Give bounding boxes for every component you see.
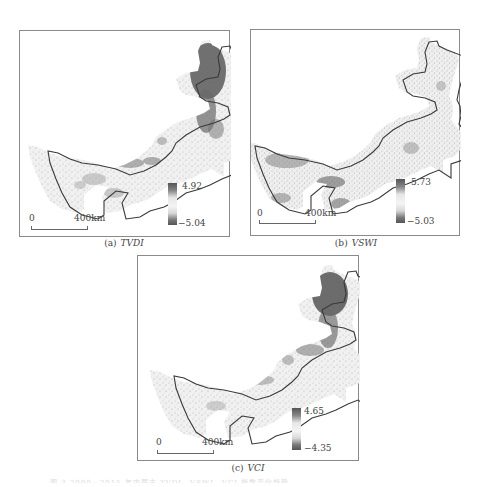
legend-min-b: −5.03 xyxy=(407,216,435,226)
legend-max-b: 5.73 xyxy=(411,177,431,187)
scale-distance-b: 400km xyxy=(305,208,336,218)
legend-max-a: 4.92 xyxy=(182,181,202,191)
map-panel-b: 5.73 −5.03 0 400km xyxy=(250,29,460,236)
scale-zero-b: 0 xyxy=(257,208,263,218)
map-panel-a: 4.92 −5.04 0 400km xyxy=(19,30,230,237)
legend-colorbar-a xyxy=(168,183,177,225)
caption-c: (c)VCI xyxy=(218,463,278,473)
region-map-c xyxy=(138,256,360,462)
legend-colorbar-c xyxy=(292,408,301,450)
caption-b: (b)VSWI xyxy=(324,238,388,248)
legend-max-c: 4.65 xyxy=(304,406,324,416)
region-map-b xyxy=(251,30,461,237)
scale-bar-c xyxy=(157,450,214,454)
legend-colorbar-b xyxy=(396,179,405,223)
scale-distance-c: 400km xyxy=(202,437,233,447)
caption-a: (a)TVDI xyxy=(94,238,154,248)
figure-caption: 图 3 2000—2015 年内蒙古 TVDI、VSWI、VCI 指数变化趋势 xyxy=(50,477,440,483)
scale-zero-a: 0 xyxy=(29,213,35,223)
map-panel-c: 4.65 −4.35 0 400km xyxy=(137,255,359,461)
region-map-a xyxy=(20,31,231,238)
scale-distance-a: 400km xyxy=(74,213,105,223)
legend-min-a: −5.04 xyxy=(178,218,206,228)
scale-zero-c: 0 xyxy=(156,437,162,447)
legend-min-c: −4.35 xyxy=(304,443,332,453)
scale-bar-a xyxy=(31,226,88,230)
scale-bar-b xyxy=(259,220,316,224)
